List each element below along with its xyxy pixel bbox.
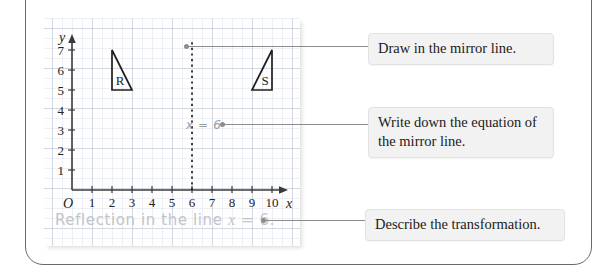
x-tick-label: 4 [149, 195, 156, 210]
leader-line-write-equation [224, 124, 368, 125]
x-tick-label: 9 [249, 195, 256, 210]
y-axis-label: y [57, 30, 66, 45]
shape-s: S [252, 50, 272, 90]
x-tick-label: 8 [229, 195, 236, 210]
description-prefix: Reflection in the line [55, 211, 228, 229]
x-tick-label: 6 [189, 195, 196, 210]
callout-draw-mirror-line: Draw in the mirror line. [368, 33, 554, 65]
y-tick-label: 6 [58, 63, 65, 78]
handwritten-description-answer: Reflection in the line x = 6. [55, 211, 275, 229]
description-variable: x [228, 211, 236, 228]
shape-s-label: S [261, 73, 268, 88]
worksheet-page: 1 2 3 4 5 6 7 1 2 3 4 5 6 7 8 9 10 O x y [0, 0, 616, 276]
axes [68, 34, 288, 194]
leader-line-draw-mirror-line [188, 46, 368, 47]
y-tick-label: 7 [58, 43, 65, 58]
x-tick-label: 5 [169, 195, 176, 210]
y-tick-label: 4 [58, 103, 65, 118]
x-tick-label: 7 [209, 195, 216, 210]
leader-line-describe-transformation [265, 220, 365, 221]
y-tick-label: 5 [58, 83, 65, 98]
y-tick-label: 3 [58, 123, 65, 138]
callout-write-equation: Write down the equation of the mirror li… [368, 107, 554, 158]
handwritten-equation-answer: x = 6 [186, 118, 221, 132]
x-tick-label: 10 [266, 195, 279, 210]
x-tick-label: 2 [109, 195, 116, 210]
y-tick-label: 2 [58, 143, 65, 158]
shape-r: R [112, 50, 132, 90]
y-tick-label: 1 [58, 163, 65, 178]
callout-describe-transformation: Describe the transformation. [365, 209, 565, 241]
origin-label: O [63, 196, 73, 211]
x-tick-label: 3 [129, 195, 136, 210]
x-tick-label: 1 [89, 195, 96, 210]
shape-r-label: R [116, 73, 125, 88]
x-axis-label: x [285, 196, 293, 211]
